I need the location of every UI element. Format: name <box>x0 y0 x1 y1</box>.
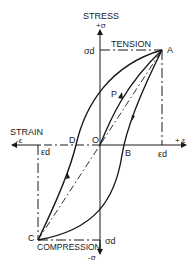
point-O-label: O <box>92 136 99 145</box>
compression-label: COMPRESSION <box>37 243 101 252</box>
tension-label: TENSION <box>111 40 151 49</box>
eps-d-right-label: εd <box>158 150 167 159</box>
stress-axis-title: STRESS <box>83 12 119 21</box>
arrow-down-on-unloading-curve <box>131 115 135 122</box>
sigma-d-bottom-label: σd <box>105 237 116 246</box>
strain-axis-negative-label: -ε <box>16 137 22 145</box>
stress-axis-negative-label: -σ <box>88 254 96 262</box>
arrow-up-on-loading-curve <box>118 92 123 99</box>
point-B-label: B <box>125 149 131 158</box>
stress-axis-positive-label: +σ <box>96 22 106 30</box>
point-C-label: C <box>28 234 35 243</box>
point-D-label: D <box>69 136 76 145</box>
point-P-label: P <box>111 90 117 99</box>
strain-axis-title: STRAIN <box>10 128 43 137</box>
sigma-d-top-label: σd <box>84 47 95 56</box>
point-A-label: A <box>167 46 173 55</box>
strain-axis-positive-label: + ε <box>175 137 185 145</box>
eps-d-left-label: εd <box>41 148 50 157</box>
stress-strain-hysteresis-diagram: STRESS +σ TENSION σd A P STRAIN -ε + ε D… <box>0 0 196 268</box>
